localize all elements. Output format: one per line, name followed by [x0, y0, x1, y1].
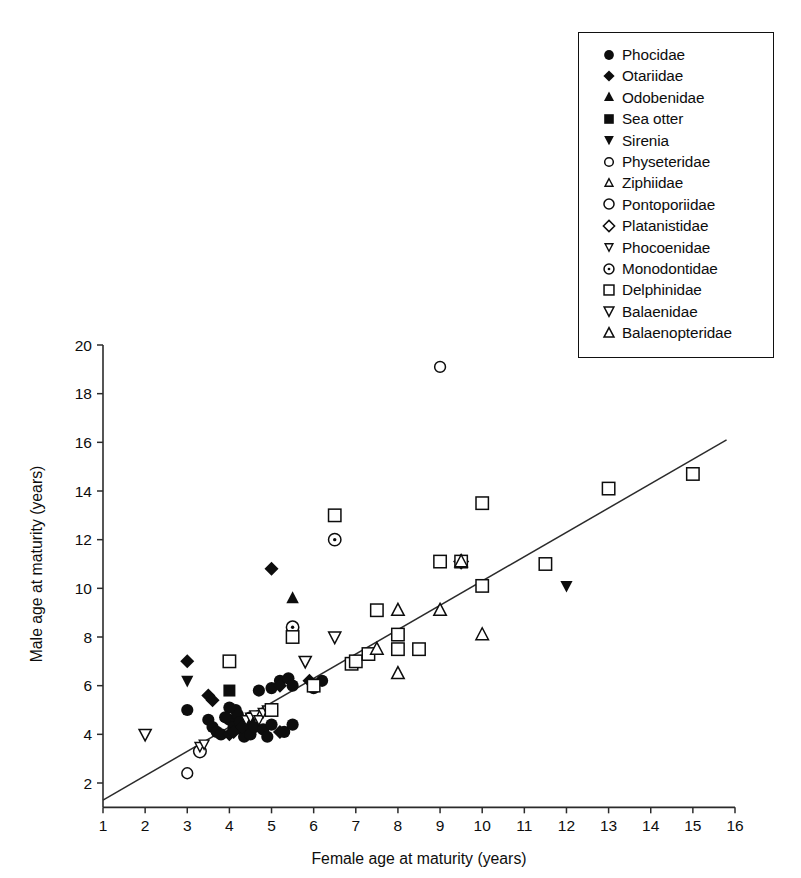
marker-open-circle	[604, 199, 614, 209]
legend-item-balaenidae: Balaenidae	[579, 301, 773, 322]
legend-item-label: Phocidae	[622, 47, 685, 62]
marker-open-square	[413, 643, 425, 655]
x-tick-label: 9	[436, 817, 445, 834]
legend-item-phocoenidae: Phocoenidae	[579, 237, 773, 258]
marker-filled-circle	[261, 731, 273, 743]
legend-item-sea-otter: Sea otter	[579, 108, 773, 129]
filled-diamond-icon	[596, 66, 622, 86]
legend-item-sirenia: Sirenia	[579, 130, 773, 151]
series-sea-otter	[223, 685, 235, 697]
marker-open-square	[307, 679, 319, 691]
legend-item-balaenopteridae: Balaenopteridae	[579, 322, 773, 343]
marker-open-square	[476, 497, 488, 509]
filled-triangle-down-icon	[596, 130, 622, 150]
marker-open-triangle-up	[604, 327, 614, 337]
y-tick-label: 20	[75, 337, 93, 354]
marker-open-square	[476, 580, 488, 592]
marker-open-square	[350, 655, 362, 667]
marker-filled-circle	[265, 719, 277, 731]
marker-open-triangle-down	[329, 632, 341, 644]
legend-item-label: Ziphiidae	[622, 175, 683, 190]
marker-open-triangle-up	[392, 667, 405, 679]
marker-filled-circle	[287, 680, 299, 692]
y-tick-label: 18	[75, 385, 92, 402]
y-tick-label: 10	[75, 580, 93, 597]
marker-open-square	[434, 555, 446, 567]
marker-open-square	[604, 285, 614, 295]
open-square-icon	[596, 280, 622, 300]
legend-item-odobenidae: Odobenidae	[579, 87, 773, 108]
x-tick-label: 15	[684, 817, 701, 834]
legend-item-label: Otariidae	[622, 68, 683, 83]
marker-open-square	[602, 482, 614, 494]
legend-item-label: Platanistidae	[622, 218, 708, 233]
x-tick-label: 1	[99, 817, 108, 834]
open-triangle-up-small-icon	[596, 173, 622, 193]
y-tick-label: 6	[83, 677, 92, 694]
marker-filled-circle	[287, 719, 299, 731]
dotted-circle-icon	[596, 259, 622, 279]
legend-item-platanistidae: Platanistidae	[579, 215, 773, 236]
x-tick-label: 13	[600, 817, 617, 834]
marker-filled-triangle-down	[181, 676, 193, 688]
legend-item-pontoporiidae: Pontoporiidae	[579, 194, 773, 215]
series-delphinidae	[223, 468, 699, 716]
marker-open-square	[392, 643, 404, 655]
open-diamond-icon	[596, 216, 622, 236]
marker-open-square	[371, 604, 383, 616]
marker-open-square	[392, 628, 404, 640]
x-tick-label: 10	[474, 817, 492, 834]
open-triangle-up-icon	[596, 323, 622, 343]
marker-filled-triangle-down	[560, 581, 572, 593]
open-circle-small-icon	[596, 152, 622, 172]
marker-dotted-circle	[604, 264, 614, 274]
x-tick-label: 6	[309, 817, 318, 834]
axes: 246810121416182012345678910111213141516F…	[28, 337, 744, 868]
y-tick-label: 2	[83, 775, 92, 792]
legend-item-label: Balaenopteridae	[622, 325, 732, 340]
marker-open-square	[687, 468, 699, 480]
legend-item-label: Monodontidae	[622, 261, 718, 276]
marker-filled-diamond	[180, 654, 194, 668]
marker-open-square	[539, 558, 551, 570]
marker-filled-square	[223, 685, 235, 697]
x-tick-label: 3	[183, 817, 192, 834]
marker-filled-triangle-up	[286, 591, 299, 603]
marker-open-square	[265, 704, 277, 716]
marker-open-circle-small	[182, 768, 193, 779]
marker-filled-diamond	[265, 562, 279, 576]
marker-filled-circle	[219, 711, 231, 723]
legend-item-physeteridae: Physeteridae	[579, 151, 773, 172]
x-tick-label: 14	[642, 817, 660, 834]
marker-open-triangle-up	[392, 603, 405, 615]
marker-open-square	[223, 655, 235, 667]
marker-filled-diamond	[603, 70, 614, 81]
x-tick-label: 11	[516, 817, 532, 834]
series-balaenopteridae	[371, 555, 489, 679]
marker-filled-circle	[604, 50, 614, 60]
marker-open-circle-small	[435, 362, 446, 373]
legend-item-label: Sirenia	[622, 133, 669, 148]
legend: PhocidaeOtariidaeOdobenidaeSea otterSire…	[578, 32, 774, 358]
marker-filled-circle	[181, 704, 193, 716]
data-points-layer	[139, 362, 699, 779]
y-tick-label: 16	[75, 434, 92, 451]
marker-open-triangle-down	[139, 729, 151, 741]
marker-open-triangle-up	[434, 603, 447, 615]
x-tick-label: 7	[351, 817, 360, 834]
y-axis-title: Male age at maturity (years)	[28, 466, 45, 663]
x-tick-label: 5	[267, 817, 276, 834]
open-circle-icon	[596, 194, 622, 214]
series-odobenidae	[286, 591, 299, 603]
legend-item-delphinidae: Delphinidae	[579, 279, 773, 300]
marker-filled-circle	[253, 684, 265, 696]
series-sirenia	[181, 581, 572, 687]
open-triangle-down-icon	[596, 301, 622, 321]
legend-item-label: Sea otter	[622, 111, 683, 126]
legend-item-label: Phocoenidae	[622, 240, 710, 255]
marker-open-square	[286, 631, 298, 643]
marker-open-triangle-up-small	[605, 179, 613, 187]
marker-filled-triangle-down	[604, 136, 614, 145]
y-tick-label: 12	[75, 531, 92, 548]
marker-open-diamond	[603, 220, 614, 231]
